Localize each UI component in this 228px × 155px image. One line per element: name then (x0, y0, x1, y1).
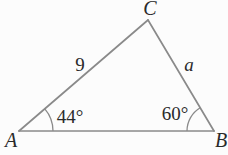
triangle-figure: C A B 9 a 44° 60° (0, 0, 228, 155)
vertex-B-label: B (215, 129, 227, 151)
vertex-C-label: C (143, 0, 157, 19)
side-CB-length-label: a (184, 54, 194, 75)
angle-B-measure-label: 60° (162, 103, 189, 124)
vertex-A-label: A (3, 129, 18, 151)
side-AC-length-label: 9 (75, 54, 85, 75)
angle-A-measure-label: 44° (57, 106, 84, 127)
